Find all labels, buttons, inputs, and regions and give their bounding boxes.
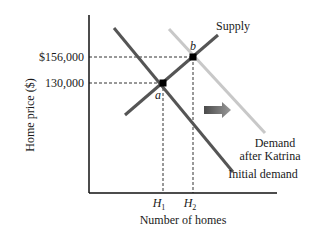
supply-curve [125, 35, 218, 115]
y-axis-title: Home price ($) [23, 78, 37, 151]
demand-after-katrina-curve [169, 29, 265, 133]
x-axis-title: Number of homes [140, 213, 227, 227]
initial-demand-curve [114, 28, 233, 172]
equilibrium-point-a [160, 80, 167, 87]
point-a-label: a [155, 88, 161, 102]
demand-after-katrina-label-line2: after Katrina [240, 149, 302, 163]
guide-lines [89, 57, 193, 193]
point-b-label: b [190, 39, 196, 53]
x-tick-h2: H2 [183, 196, 197, 212]
initial-demand-label: Initial demand [228, 167, 298, 181]
supply-demand-chart: Supply b a Demand after Katrina Initial … [0, 0, 311, 242]
demand-after-katrina-label-line1: Demand [255, 136, 296, 150]
y-tick-130000: 130,000 [45, 76, 84, 90]
supply-label: Supply [216, 19, 250, 33]
demand-shift-arrow-icon [204, 102, 231, 118]
y-tick-156000: $156,000 [39, 50, 84, 64]
x-tick-h1: H1 [152, 196, 166, 212]
equilibrium-point-b [190, 54, 197, 61]
